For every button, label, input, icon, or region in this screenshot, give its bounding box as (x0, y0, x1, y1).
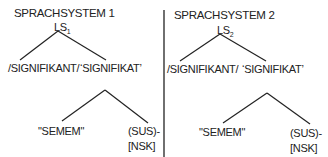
panel-2-sus: (SUS)- (290, 128, 322, 139)
root-subscript: 1 (67, 28, 71, 35)
root-subscript: 2 (230, 31, 234, 38)
root-label: LS (217, 24, 230, 36)
panel-2-nsk: [NSK] (290, 143, 317, 154)
panel-2-signifikat: ‘SIGNIFIKAT’ (242, 64, 304, 75)
panel-1-nsk: [NSK] (128, 141, 155, 152)
panel-1-sus: (SUS)- (128, 126, 160, 137)
panel-1-title: SPRACHSYSTEM 1 (14, 8, 115, 20)
panel-2-title: SPRACHSYSTEM 2 (174, 10, 275, 22)
root-label: LS (54, 21, 67, 33)
panel-1-semem: "SEMEM" (38, 126, 84, 137)
panel-1-signifikat: ‘SIGNIFIKAT’ (80, 63, 142, 74)
panel-2-signifikant: /SIGNIFIKANT/ (167, 64, 238, 75)
panel-2-semem: "SEMEM" (199, 127, 245, 138)
panel-1-signifikant: /SIGNIFIKANT/ (8, 63, 79, 74)
panel-1-root: LS1 (54, 22, 70, 33)
panel-2-root: LS2 (217, 25, 233, 36)
